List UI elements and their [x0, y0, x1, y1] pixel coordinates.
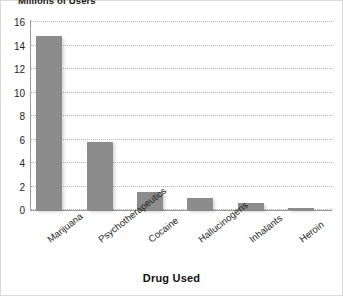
x-axis-title: Drug Used — [0, 272, 343, 284]
gridline: 0 — [30, 209, 332, 210]
gridline: 12 — [30, 68, 332, 69]
gridline: 4 — [30, 162, 332, 163]
bar — [87, 142, 113, 210]
y-tick-label: 0 — [19, 205, 25, 216]
gridline: 8 — [30, 115, 332, 116]
gridline: 10 — [30, 92, 332, 93]
y-tick-label: 6 — [19, 134, 25, 145]
y-tick-label: 16 — [14, 17, 25, 28]
y-axis-title: Millions of Users — [18, 0, 96, 6]
y-tick-label: 10 — [14, 87, 25, 98]
y-tick-label: 12 — [14, 64, 25, 75]
y-tick-label: 2 — [19, 181, 25, 192]
bar-chart: Millions of Users 0246810121416 Marijuan… — [0, 0, 343, 296]
gridline: 2 — [30, 186, 332, 187]
gridline: 16 — [30, 21, 332, 22]
x-tick-label: Marijuana — [45, 210, 85, 244]
y-tick-label: 8 — [19, 111, 25, 122]
x-tick-label: Inhalants — [247, 212, 284, 244]
bar — [288, 208, 314, 210]
bar — [36, 36, 62, 210]
x-tick-label: Cocaine — [146, 215, 180, 245]
y-tick-label: 14 — [14, 40, 25, 51]
bar — [187, 198, 213, 210]
gridline: 14 — [30, 45, 332, 46]
y-tick-label: 4 — [19, 158, 25, 169]
plot-area: 0246810121416 MarijuanaPsychotherapeutic… — [30, 22, 332, 210]
x-tick-label: Heroin — [297, 219, 326, 245]
gridline: 6 — [30, 139, 332, 140]
